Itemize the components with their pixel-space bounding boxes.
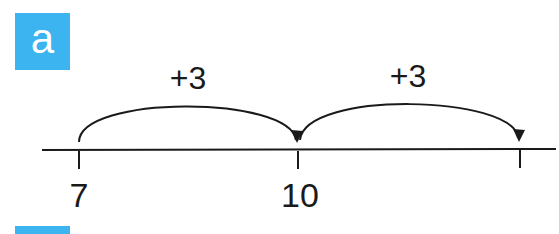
tick-label-7: 7 [70, 176, 89, 215]
jump-label-2: +3 [390, 58, 426, 95]
jump-arc-2 [300, 104, 518, 140]
jump-label-1: +3 [170, 60, 206, 97]
tick-label-10: 10 [281, 176, 319, 215]
axis-line [42, 149, 556, 150]
arrow-head-icon [513, 129, 525, 142]
jump-arc-1 [79, 106, 296, 142]
